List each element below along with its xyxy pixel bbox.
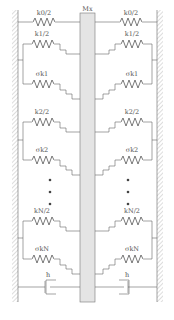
ellipsis-right xyxy=(127,179,130,206)
group-1-spring-label-right: k1/2 xyxy=(125,30,139,38)
group-1-left: k1/2 σk1 xyxy=(18,30,80,99)
right-wall xyxy=(157,10,163,302)
group-n-spring-label-left: kN/2 xyxy=(34,207,50,215)
top-spring-left-label: k0/2 xyxy=(37,9,51,17)
damper-right-label: h xyxy=(125,271,129,279)
group-2-spring-label-left: k2/2 xyxy=(35,108,49,116)
group-2-spring-label-right: k2/2 xyxy=(125,108,139,116)
damper-left-label: h xyxy=(46,271,50,279)
group-2-left: k2/2 σk2 xyxy=(18,108,80,175)
mass-mx: Mx xyxy=(80,5,95,302)
group-1-gap-label-left: σk1 xyxy=(36,70,49,78)
group-n-right: kN/2 σkN xyxy=(95,207,157,274)
group-2-gap-label-right: σk2 xyxy=(126,146,139,154)
spring-mass-diagram: Mx k0/2 k0/2 k1/2 σk1 k1/2 σk1 xyxy=(0,0,174,320)
group-1-gap-label-right: σk1 xyxy=(126,70,139,78)
group-n-left: kN/2 σkN xyxy=(18,207,80,274)
damper-left: h xyxy=(18,271,80,294)
top-spring-right-label: k0/2 xyxy=(124,9,138,17)
ellipsis-left xyxy=(49,179,52,206)
group-1-spring-label-left: k1/2 xyxy=(35,30,49,38)
group-n-spring-label-right: kN/2 xyxy=(124,207,140,215)
group-1-right: k1/2 σk1 xyxy=(95,30,157,99)
group-2-gap-label-left: σk2 xyxy=(36,146,49,154)
mass-label: Mx xyxy=(82,5,93,13)
top-spring-left: k0/2 xyxy=(18,9,80,26)
top-spring-right: k0/2 xyxy=(95,9,157,26)
group-2-right: k2/2 σk2 xyxy=(95,108,157,175)
damper-right: h xyxy=(95,271,157,294)
left-wall xyxy=(12,10,18,302)
group-n-gap-label-right: σkN xyxy=(125,245,139,253)
group-n-gap-label-left: σkN xyxy=(35,245,49,253)
